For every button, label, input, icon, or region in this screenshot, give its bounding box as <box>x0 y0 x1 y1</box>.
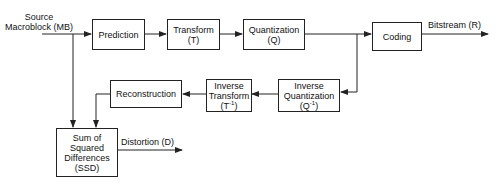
inverse-quantization-line1: Inverse <box>294 81 324 91</box>
transform-label: Transform <box>173 25 214 35</box>
prediction-block: Prediction <box>92 19 145 50</box>
coding-label: Coding <box>383 32 412 42</box>
ssd-line4: (SSD) <box>75 163 100 173</box>
ssd-line1: Sum of <box>73 133 102 143</box>
quantization-block: Quantization (Q) <box>243 19 305 50</box>
inverse-quantization-block: Inverse Quantization (Q-1) <box>278 79 340 112</box>
reconstruction-block: Reconstruction <box>110 80 182 108</box>
ssd-line2: Squared <box>70 143 104 153</box>
iq-symbol-close: ) <box>315 101 318 111</box>
iq-symbol-base: (Q <box>300 101 310 111</box>
coding-block: Coding <box>372 22 422 51</box>
it-symbol-base: (T <box>221 101 230 111</box>
inverse-transform-block: Inverse Transform (T-1) <box>206 79 252 112</box>
inverse-transform-symbol: (T-1) <box>221 101 238 111</box>
quantization-symbol: (Q) <box>268 35 281 45</box>
ssd-line3: Differences <box>64 153 109 163</box>
reconstruction-label: Reconstruction <box>116 89 176 99</box>
inverse-quantization-symbol: (Q-1) <box>300 101 318 111</box>
transform-block: Transform (T) <box>167 19 220 50</box>
source-label-line1: Source <box>4 12 74 22</box>
ssd-block: Sum of Squared Differences (SSD) <box>56 128 118 177</box>
prediction-label: Prediction <box>98 30 138 40</box>
source-label-line2: Macroblock (MB) <box>4 22 74 32</box>
quantization-label: Quantization <box>249 25 300 35</box>
bitstream-label: Bitstream (R) <box>428 20 481 30</box>
inverse-transform-line1: Inverse <box>214 81 244 91</box>
source-macroblock-label: Source Macroblock (MB) <box>4 12 74 32</box>
distortion-label: Distortion (D) <box>121 137 174 147</box>
transform-symbol: (T) <box>188 35 200 45</box>
it-symbol-close: ) <box>234 101 237 111</box>
